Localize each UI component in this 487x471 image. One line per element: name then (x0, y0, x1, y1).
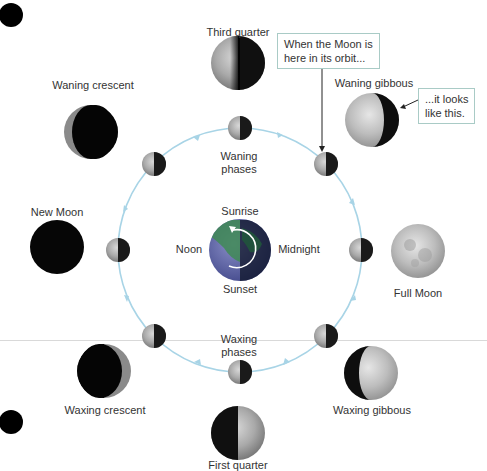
label-waxing-phases: Waxing phases (221, 333, 257, 359)
orbit-moon (314, 152, 338, 176)
moon-waxing-crescent (77, 344, 131, 398)
corner-dot-bottom (0, 410, 23, 434)
label-waxing-gibbous: Waxing gibbous (333, 404, 411, 417)
moon-waning-crescent (64, 105, 118, 159)
orbit-moon (349, 238, 373, 262)
orbit-moon (142, 152, 166, 176)
orbit-moon (142, 324, 166, 348)
callout-orbit-position: When the Moon is here in its orbit... (277, 33, 380, 69)
label-sunset: Sunset (223, 283, 257, 296)
orbit-moon (228, 360, 252, 384)
label-new-moon: New Moon (31, 206, 84, 219)
label-noon: Noon (176, 243, 202, 256)
label-midnight: Midnight (278, 243, 320, 256)
earth-globe (205, 219, 275, 282)
label-sunrise: Sunrise (221, 205, 258, 218)
moon-waning-gibbous (345, 93, 399, 147)
label-waning-phases: Waning phases (221, 150, 258, 176)
orbit-moon (228, 116, 252, 140)
appearance-callout-pointer (403, 100, 418, 107)
label-first-quarter: First quarter (208, 459, 267, 471)
label-waning-crescent: Waning crescent (52, 79, 134, 92)
label-waxing-crescent: Waxing crescent (65, 404, 146, 417)
label-full-moon: Full Moon (394, 287, 442, 300)
label-third-quarter: Third quarter (207, 26, 270, 39)
moon-full-moon (391, 224, 445, 278)
moon-first-quarter (211, 406, 265, 460)
moon-phase-diagram (0, 0, 487, 471)
moon-waxing-gibbous (344, 346, 398, 400)
callout-appearance: ...it looks like this. (418, 88, 475, 124)
label-waning-gibbous: Waning gibbous (335, 77, 413, 90)
moon-new-moon (30, 220, 84, 274)
corner-dot-top (0, 3, 23, 27)
orbit-moon (314, 324, 338, 348)
orbit-moon (106, 238, 130, 262)
moon-third-quarter (211, 36, 265, 90)
